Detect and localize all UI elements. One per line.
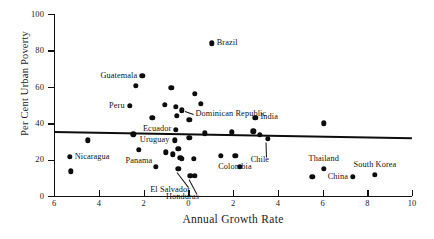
data-point-south-korea[interactable] — [372, 172, 377, 177]
y-tick-label: 20 — [2, 155, 44, 164]
data-point[interactable] — [163, 150, 168, 155]
x-tick-label: 2 — [134, 199, 154, 208]
data-point-el-salvador[interactable] — [175, 166, 180, 171]
point-label: Brazil — [217, 39, 238, 47]
data-point[interactable] — [179, 156, 184, 161]
data-point-nicaragua[interactable] — [67, 154, 72, 159]
point-label: Dominican Republic — [196, 110, 267, 118]
point-label: India — [260, 113, 278, 121]
data-point[interactable] — [133, 83, 138, 88]
data-point-brazil[interactable] — [209, 40, 214, 45]
x-tick — [412, 190, 413, 196]
scatter-chart: 020406080100 6420246810 GuatemalaPeruDom… — [0, 0, 434, 239]
label-leader-line — [185, 111, 194, 115]
point-label: Peru — [109, 102, 125, 110]
data-point[interactable] — [174, 113, 179, 118]
data-point-ecuador[interactable] — [173, 127, 178, 132]
data-point[interactable] — [257, 132, 262, 137]
x-tick-label: 4 — [89, 199, 109, 208]
x-tick-label: 8 — [357, 199, 377, 208]
data-point[interactable] — [68, 169, 73, 174]
data-point[interactable] — [153, 164, 158, 169]
y-tick-label: 0 — [2, 192, 44, 201]
x-tick-label: 10 — [402, 199, 422, 208]
data-point[interactable] — [150, 115, 155, 120]
point-label: Thailand — [309, 155, 339, 163]
data-point[interactable] — [310, 174, 315, 179]
y-axis-title: Per Cent Urban Poverty — [19, 14, 30, 154]
x-axis-title: Annual Growth Rate — [54, 213, 412, 225]
label-leader-line — [266, 142, 267, 157]
data-point-chile[interactable] — [265, 136, 270, 141]
point-label: Honduras — [166, 193, 199, 201]
data-point-peru[interactable] — [127, 103, 132, 108]
point-label: Panama — [126, 157, 153, 165]
x-tick-label: 4 — [268, 199, 288, 208]
plot-area: GuatemalaPeruDominican RepublicBrazilInd… — [54, 14, 412, 196]
data-point[interactable] — [169, 85, 174, 90]
point-label: Uruguay — [140, 136, 170, 144]
data-point-panama[interactable] — [136, 147, 141, 152]
data-point-colombia[interactable] — [233, 153, 238, 158]
x-tick-label: 6 — [313, 199, 333, 208]
data-point[interactable] — [192, 173, 197, 178]
point-label: Guatemala — [100, 72, 137, 80]
data-point[interactable] — [187, 117, 192, 122]
data-point[interactable] — [250, 129, 255, 134]
point-label: South Korea — [354, 161, 397, 169]
data-point[interactable] — [173, 104, 178, 109]
data-point-uruguay[interactable] — [172, 138, 177, 143]
data-point[interactable] — [218, 153, 223, 158]
data-point[interactable] — [131, 131, 136, 136]
data-point[interactable] — [198, 101, 203, 106]
data-point[interactable] — [321, 120, 326, 125]
point-label: Nicaragua — [75, 153, 110, 161]
data-point[interactable] — [162, 102, 167, 107]
data-point[interactable] — [175, 146, 180, 151]
x-tick-label: 2 — [223, 199, 243, 208]
data-point-china[interactable] — [350, 174, 355, 179]
point-label: Ecuador — [143, 125, 171, 133]
data-point[interactable] — [192, 91, 197, 96]
data-point[interactable] — [170, 151, 175, 156]
data-point-guatemala[interactable] — [140, 73, 145, 78]
data-point-dominican-republic[interactable] — [179, 108, 184, 113]
x-tick-label: 6 — [44, 199, 64, 208]
point-label: Colombia — [218, 163, 252, 171]
data-point[interactable] — [191, 156, 196, 161]
point-label: China — [328, 173, 348, 181]
data-point-thailand[interactable] — [321, 166, 326, 171]
data-point[interactable] — [187, 135, 192, 140]
data-point[interactable] — [85, 138, 90, 143]
